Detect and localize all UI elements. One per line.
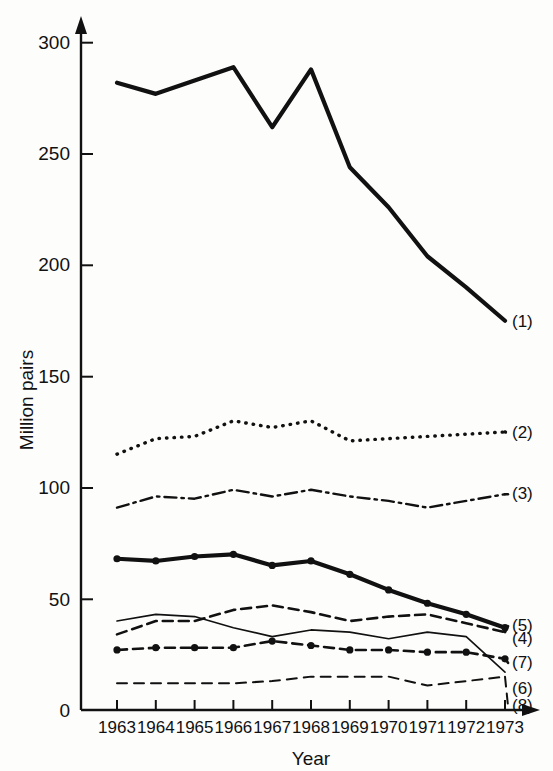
series-marker-4: [463, 611, 470, 618]
y-axis-title: Million pairs: [16, 350, 37, 450]
series-leader-2: [505, 432, 508, 433]
series-label-3: (3): [512, 484, 533, 503]
series-label-1: (1): [512, 312, 533, 331]
series-line-3: [117, 490, 505, 508]
series-marker-7: [424, 649, 431, 656]
series-marker-4: [191, 553, 198, 560]
series-label-group: (1)(2)(3)(4)(5)(6)(7)(8): [512, 312, 533, 715]
x-tick-label-1968: 1968: [292, 718, 330, 737]
chart-figure: 300 250 200 150 100 50 0 Million pairs: [0, 0, 553, 771]
x-tick-label-1970: 1970: [370, 718, 408, 737]
series-marker-4: [424, 600, 431, 607]
series-label-5: (5): [512, 616, 533, 635]
series-line-4: [117, 554, 505, 627]
series-marker-7: [269, 637, 276, 644]
x-tick-label-1965: 1965: [176, 718, 214, 737]
x-tick-label-1973: 1973: [486, 718, 524, 737]
series-marker-4: [346, 571, 353, 578]
series-label-7: (7): [512, 653, 533, 672]
x-tick-label-1964: 1964: [137, 718, 175, 737]
series-label-8: (8): [512, 696, 533, 715]
series-line-1: [117, 67, 505, 321]
series-marker-4: [269, 562, 276, 569]
x-tick-label-1963: 1963: [98, 718, 136, 737]
line-chart: 300 250 200 150 100 50 0 Million pairs: [0, 0, 553, 771]
y-tick-marks: [81, 43, 93, 600]
y-tick-label-300: 300: [38, 32, 70, 53]
x-tick-labels: 1963 1964 1965 1966 1967 1968 1969 1970 …: [98, 718, 524, 737]
series-marker-7: [346, 646, 353, 653]
series-marker-7: [230, 644, 237, 651]
series-marker-4: [307, 557, 314, 564]
x-tick-label-1966: 1966: [214, 718, 252, 737]
series-marker-4: [230, 551, 237, 558]
series-group: [113, 67, 508, 705]
x-tick-label-1972: 1972: [447, 718, 485, 737]
y-axis: [75, 16, 87, 710]
series-marker-7: [191, 644, 198, 651]
series-line-8: [117, 677, 505, 686]
series-line-2: [117, 421, 505, 454]
x-tick-label-1969: 1969: [331, 718, 369, 737]
y-tick-label-100: 100: [38, 477, 70, 498]
series-marker-4: [113, 555, 120, 562]
y-axis-arrow: [75, 16, 87, 34]
y-tick-label-150: 150: [38, 366, 70, 387]
y-tick-label-0: 0: [59, 700, 70, 721]
series-marker-4: [152, 557, 159, 564]
y-tick-labels: 300 250 200 150 100 50 0: [38, 32, 70, 721]
series-marker-4: [385, 586, 392, 593]
y-tick-label-200: 200: [38, 254, 70, 275]
x-tick-marks: [117, 700, 505, 710]
series-marker-7: [307, 642, 314, 649]
series-marker-7: [152, 644, 159, 651]
y-tick-label-50: 50: [49, 589, 70, 610]
series-marker-7: [113, 646, 120, 653]
y-tick-label-250: 250: [38, 143, 70, 164]
series-marker-7: [463, 649, 470, 656]
series-label-2: (2): [512, 423, 533, 442]
x-tick-label-1971: 1971: [408, 718, 446, 737]
x-axis-title: Year: [292, 748, 331, 769]
x-tick-label-1967: 1967: [253, 718, 291, 737]
series-marker-7: [385, 646, 392, 653]
